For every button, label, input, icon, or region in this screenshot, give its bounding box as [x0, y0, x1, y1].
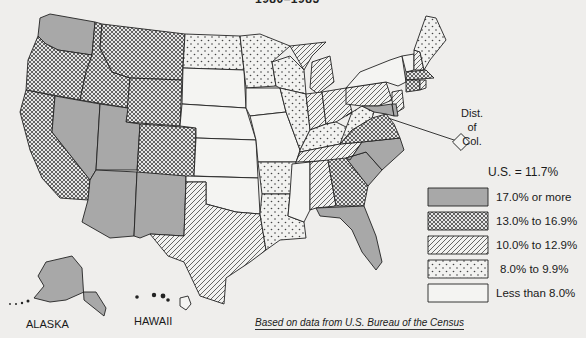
- hawaii-label: HAWAII: [134, 315, 172, 327]
- state-MA: [406, 70, 434, 80]
- legend-swatch-diag: [428, 236, 488, 254]
- state-AZ: [82, 170, 137, 238]
- state-ND: [183, 34, 244, 70]
- state-WY: [126, 78, 182, 126]
- source-note: Based on data from U.S. Bureau of the Ce…: [255, 317, 464, 330]
- legend-label-blank: Less than 8.0%: [496, 287, 575, 299]
- dc-label: Dist. of Col.: [452, 106, 492, 148]
- state-NM: [134, 172, 186, 238]
- state-IA: [246, 88, 286, 116]
- state-RI: [420, 80, 426, 90]
- state-CT: [406, 80, 420, 92]
- legend-label-diag: 10.0% to 12.9%: [496, 239, 577, 251]
- legend-label-cross: 13.0% to 16.9%: [496, 215, 577, 227]
- alaska-islands: [9, 300, 29, 306]
- state-MT: [100, 24, 185, 80]
- state-NY: [346, 56, 406, 88]
- state-AK: [34, 256, 106, 316]
- us-average: U.S. = 11.7%: [488, 165, 558, 179]
- state-FL: [316, 206, 382, 270]
- state-CO: [137, 124, 196, 178]
- legend-swatch-cross: [428, 212, 488, 230]
- legend-swatch-gray: [428, 188, 488, 206]
- legend-swatch-blank: [428, 284, 488, 302]
- state-SD: [182, 68, 246, 108]
- state-MS: [288, 162, 310, 222]
- state-KS: [194, 138, 258, 178]
- legend-label-gray: 17.0% or more: [496, 191, 571, 203]
- alaska-label: ALASKA: [26, 318, 69, 330]
- legend-swatch-dots: [428, 260, 488, 278]
- legend-label-dots: 8.0% to 9.9%: [500, 263, 568, 275]
- state-HI: [135, 293, 191, 310]
